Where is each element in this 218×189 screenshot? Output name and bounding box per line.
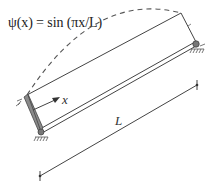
mode-shape-curve (27, 9, 181, 95)
x-axis-label: x (61, 92, 68, 107)
right-pin-support (193, 41, 199, 47)
length-label: L (114, 113, 122, 128)
beam-right-end (181, 13, 196, 42)
x-axis-arrowhead (52, 97, 60, 103)
left-end-face (24, 94, 43, 132)
dimension-end-dot-right (196, 84, 199, 87)
dimension-end-dot-left (39, 175, 42, 178)
left-pin-support (38, 129, 44, 135)
x-axis-arrow (33, 100, 55, 110)
left-support-top (16, 99, 22, 106)
beam-diagram: x L (0, 0, 218, 189)
right-end-tick (188, 24, 191, 26)
left-support-hatch (34, 137, 48, 141)
left-end-inner (28, 95, 40, 129)
